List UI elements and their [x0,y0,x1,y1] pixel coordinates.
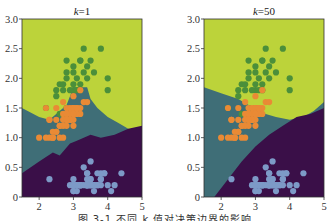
data-point [245,75,251,81]
data-point [263,182,269,188]
data-point [57,135,63,141]
data-point [287,182,293,188]
chart-panel-1: 00.51.01.52.02.53.02345k=1 [5,5,145,212]
data-point [273,69,279,75]
data-point [252,63,258,69]
data-point [46,176,52,182]
data-point [46,135,52,141]
y-tick-label: 2.5 [187,43,200,54]
data-point [81,69,87,75]
data-point [74,75,80,81]
data-point [84,170,90,176]
data-point [256,75,262,81]
y-tick-label: 1.5 [5,103,18,114]
data-point [105,75,111,81]
data-point [53,93,59,99]
data-point [105,182,111,188]
data-point [36,135,42,141]
data-point [77,81,83,87]
data-point [70,176,76,182]
data-point [252,188,258,194]
data-point [266,99,272,105]
data-point [235,93,241,99]
data-point [63,75,69,81]
data-point [57,123,63,129]
data-point [239,123,245,129]
data-point [98,46,104,52]
data-point [252,123,258,129]
data-point [276,182,282,188]
data-point [84,63,90,69]
data-point [84,75,90,81]
data-point [43,105,49,111]
data-point [293,182,299,188]
data-point [70,182,76,188]
data-point [266,75,272,81]
data-point [235,129,241,135]
data-point [259,87,265,93]
data-point [108,188,114,194]
chart-title: k=50 [253,5,276,17]
data-point [242,81,248,87]
data-point [235,87,241,93]
data-point [118,170,124,176]
data-point [70,69,76,75]
y-tick-label: 3.0 [5,14,18,25]
data-point [242,99,248,105]
y-tick-label: 2.0 [5,73,18,84]
data-point [252,182,258,188]
data-point [87,158,93,164]
data-point [263,46,269,52]
data-point [63,57,69,63]
chart-panel-2: 00.51.01.52.02.53.02345k=50 [187,5,327,212]
data-point [269,158,275,164]
data-point [266,170,272,176]
data-point [269,57,275,63]
data-point [70,111,76,117]
chart-title: k=1 [74,5,91,17]
data-point [228,176,234,182]
data-point [252,176,258,182]
y-tick-label: 0.5 [187,162,200,173]
data-point [273,188,279,194]
data-point [70,188,76,194]
data-point [60,81,66,87]
data-point [91,188,97,194]
data-point [280,170,286,176]
data-point [266,63,272,69]
data-point [63,69,69,75]
data-point [105,87,111,93]
figure-caption: 图 3-1 不同 k 值对决策边界的影响 [0,211,330,221]
data-point [63,111,69,117]
data-point [245,69,251,75]
data-point [46,117,52,123]
data-point [245,111,251,117]
figure: 00.51.01.52.02.53.02345k=100.51.01.52.02… [0,0,330,221]
data-point [235,105,241,111]
y-tick-label: 2.0 [187,73,200,84]
data-point [225,105,231,111]
y-tick-label: 0 [195,192,200,203]
data-point [259,57,265,63]
y-tick-label: 3.0 [187,14,200,25]
data-point [98,170,104,176]
data-point [81,182,87,188]
data-point [249,87,255,93]
y-tick-label: 2.5 [5,43,18,54]
data-point [235,117,241,123]
data-point [263,69,269,75]
data-point [228,117,234,123]
data-point [280,176,286,182]
data-point [269,176,275,182]
data-point [84,99,90,105]
data-point [263,164,269,170]
data-point [252,69,258,75]
data-point [242,87,248,93]
data-point [287,75,293,81]
data-point [87,176,93,182]
data-point [239,135,245,141]
data-point [290,188,296,194]
data-point [252,93,258,99]
knn-decision-boundary-plots: 00.51.01.52.02.53.02345k=100.51.01.52.02… [0,0,330,221]
data-point [63,117,69,123]
